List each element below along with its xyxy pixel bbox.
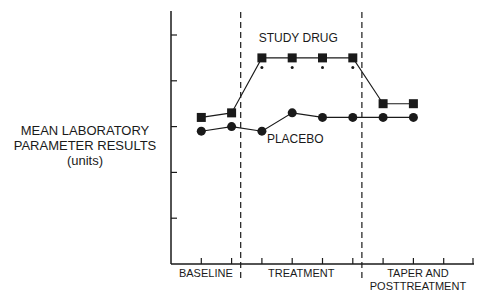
- square-marker: [379, 99, 388, 108]
- phase-label-treatment: TREATMENT: [268, 267, 335, 279]
- circle-marker: [197, 127, 206, 136]
- significance-asterisk: [351, 66, 354, 69]
- line-chart: STUDY DRUGPLACEBOBASELINETREATMENTTAPER …: [0, 0, 483, 299]
- circle-marker: [348, 113, 357, 122]
- series-study-drug: [197, 53, 418, 122]
- circle-marker: [318, 113, 327, 122]
- phase-label-baseline: BASELINE: [179, 267, 233, 279]
- circle-marker: [409, 113, 418, 122]
- series-label-study-drug: STUDY DRUG: [259, 31, 338, 45]
- series-label-placebo: PLACEBO: [267, 132, 324, 146]
- square-marker: [318, 53, 327, 62]
- significance-asterisk: [291, 66, 294, 69]
- square-marker: [227, 108, 236, 117]
- circle-marker: [379, 113, 388, 122]
- phase-label-taper-and-posttreatment: TAPER AND: [387, 267, 449, 279]
- circle-marker: [227, 122, 236, 131]
- square-marker: [348, 53, 357, 62]
- circle-marker: [257, 127, 266, 136]
- square-marker: [409, 99, 418, 108]
- data-series: [197, 53, 418, 135]
- square-marker: [257, 53, 266, 62]
- phase-dividers: [241, 12, 362, 281]
- square-marker: [288, 53, 297, 62]
- square-marker: [197, 113, 206, 122]
- chart-labels: STUDY DRUGPLACEBOBASELINETREATMENTTAPER …: [179, 31, 466, 292]
- significance-asterisk: [260, 66, 263, 69]
- circle-marker: [288, 108, 297, 117]
- phase-label-taper-and-posttreatment: POSTTREATMENT: [370, 280, 467, 292]
- significance-asterisk: [321, 66, 324, 69]
